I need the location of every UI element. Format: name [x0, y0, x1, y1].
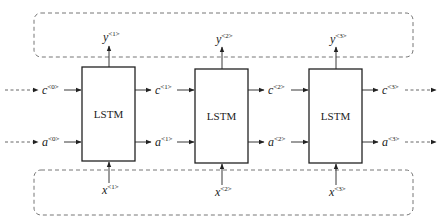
lstm-cell-2: LSTM [195, 69, 248, 163]
a1-label: a<1> [155, 135, 172, 149]
a2-label: a<2> [268, 135, 285, 149]
output-label-2: y<2> [215, 32, 233, 46]
c1-label: c<1> [155, 83, 172, 97]
a0-label: a<0> [42, 135, 59, 149]
lstm-cell-label: LSTM [207, 110, 237, 122]
output-label-3: y<3> [329, 32, 347, 46]
lstm-cell-label: LSTM [94, 108, 124, 120]
lstm-cell-1: LSTM [82, 67, 135, 161]
lstm-diagram: LSTM LSTM LSTM y<1> y<2> y<3> x<1> x<2> … [0, 0, 442, 221]
input-label-3: x<3> [328, 185, 346, 199]
lstm-cell-label: LSTM [321, 110, 351, 122]
output-label-1: y<1> [102, 30, 120, 44]
a3-label: a<3> [382, 135, 399, 149]
input-label-2: x<2> [214, 185, 232, 199]
input-label-1: x<1> [101, 183, 119, 197]
c2-label: c<2> [268, 83, 285, 97]
c0-label: c<0> [42, 83, 59, 97]
c3-label: c<3> [382, 83, 399, 97]
lstm-cell-3: LSTM [309, 69, 362, 163]
